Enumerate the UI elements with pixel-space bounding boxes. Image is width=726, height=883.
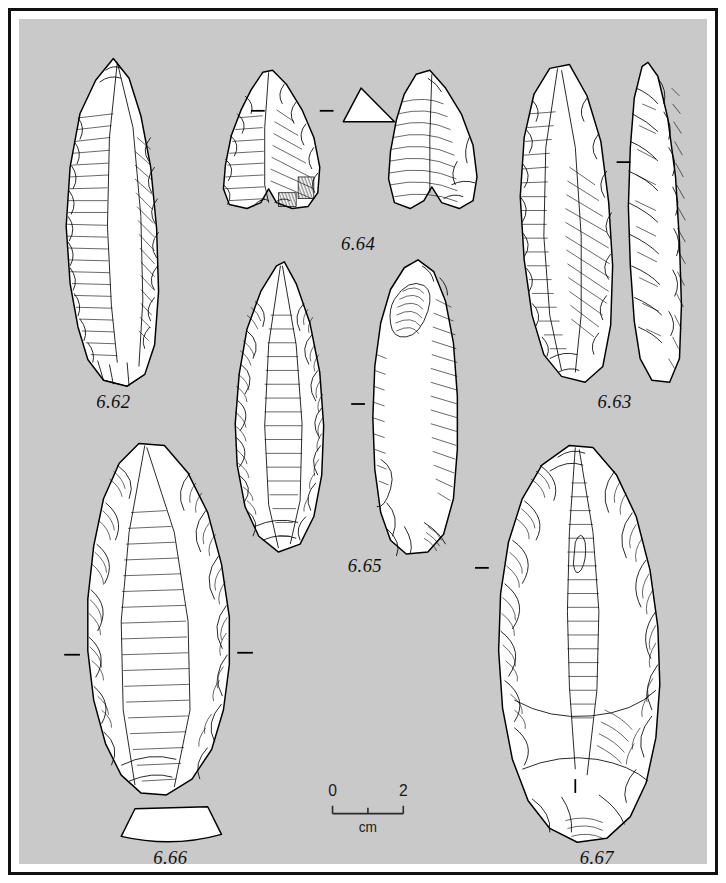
figure-label-6-66: 6.66 [153, 847, 187, 864]
plate-border-frame: 6.62 [8, 8, 718, 875]
figure-6-66: 6.66 [64, 443, 253, 864]
scale-end-label: 2 [399, 782, 408, 799]
artifact-6-65-ventral-view [373, 260, 458, 556]
artifact-6-64-cross-section [343, 88, 394, 122]
illustration-plate: 6.62 [0, 0, 726, 883]
figure-6-64: 6.64 [223, 70, 477, 254]
figure-label-6-67: 6.67 [580, 847, 614, 864]
scale-start-label: 0 [328, 782, 337, 799]
artifact-6-65-dorsal-view [235, 262, 323, 552]
artifact-6-66-cross-section [121, 807, 221, 842]
figure-label-6-63: 6.63 [597, 391, 631, 412]
figure-label-6-65: 6.65 [348, 555, 382, 576]
artifact-6-63-face-view [520, 64, 612, 382]
figure-6-65: 6.65 [235, 260, 457, 576]
figure-6-67: 6.67 [475, 445, 660, 864]
scale-bar: 0 2 cm [328, 782, 408, 836]
figure-6-63: 6.63 [520, 62, 685, 412]
artifact-6-64-ventral-view [389, 70, 477, 208]
scale-unit-label: cm [359, 820, 377, 835]
figure-label-6-62: 6.62 [96, 391, 130, 412]
artifact-6-62-dorsal-view [66, 58, 158, 386]
artifact-6-64-dorsal-view [223, 70, 319, 208]
artifact-6-63-lateral-view [628, 62, 685, 382]
figure-label-6-64: 6.64 [341, 233, 375, 254]
plate-drawing-field: 6.62 [19, 19, 707, 864]
artifact-6-66-face-view [88, 443, 230, 794]
lithic-plate-svg: 6.62 [19, 19, 707, 864]
artifact-6-67-face-view [499, 445, 660, 842]
figure-6-62: 6.62 [66, 58, 158, 411]
